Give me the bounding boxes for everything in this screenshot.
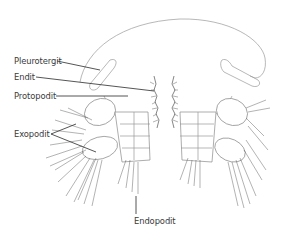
- pleurotergit-left: [90, 59, 116, 90]
- right-protopodit: [212, 93, 252, 130]
- anatomy-drawing: [0, 0, 282, 239]
- right-endopodit-setae: [180, 158, 200, 188]
- carapace-outline: [80, 19, 265, 82]
- label-endit: Endit: [14, 73, 35, 81]
- left-protopodit-segments: [115, 112, 150, 162]
- left-protopodit: [80, 93, 120, 130]
- pleurotergit-right: [221, 59, 260, 86]
- right-exopodit: [211, 133, 249, 166]
- endit-row-left: [154, 76, 159, 128]
- label-endopodit: Endopodit: [134, 217, 176, 225]
- label-exopodit: Exopodit: [14, 130, 50, 138]
- label-pleurotergit: Pleurotergit: [14, 57, 62, 65]
- left-endopodit-setae: [118, 160, 138, 194]
- left-limb: [46, 93, 150, 206]
- label-protopodit: Protopodit: [14, 92, 56, 100]
- pleurotergit-leader: [57, 61, 100, 70]
- endit-leader: [36, 77, 154, 91]
- right-limb: [180, 93, 270, 208]
